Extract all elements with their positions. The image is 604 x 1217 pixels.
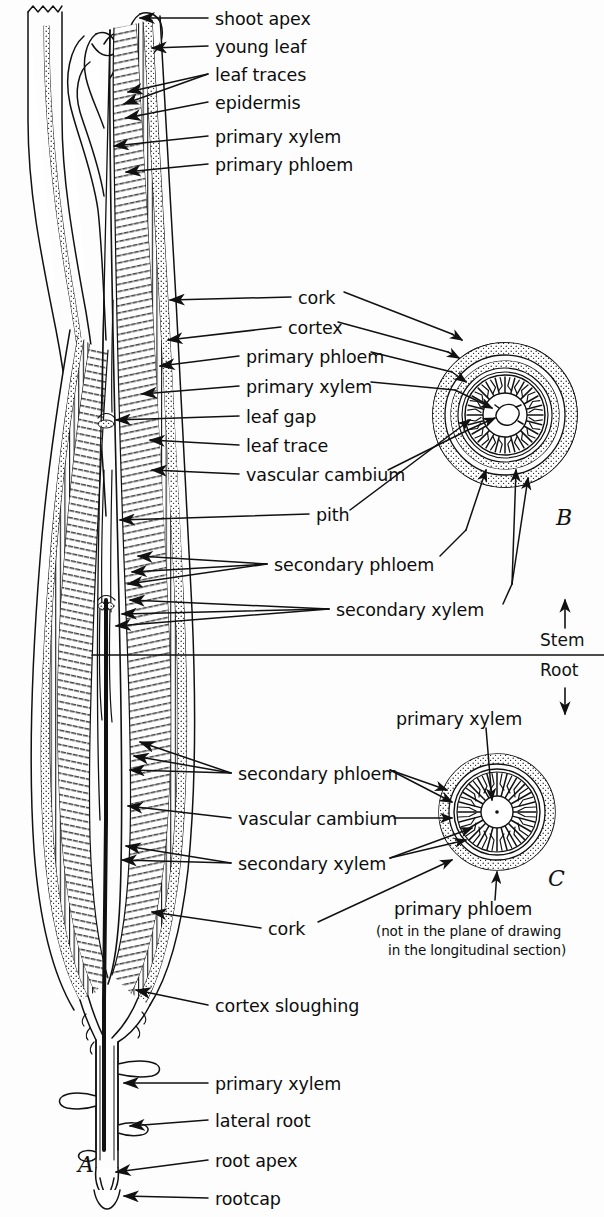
- root-divider-label: Root: [540, 660, 579, 680]
- label-cork-2: cork: [268, 920, 305, 938]
- label-cortex: cortex: [288, 319, 343, 337]
- label-leaf-trace: leaf trace: [246, 437, 328, 455]
- label-primary-phloem-1: primary phloem: [215, 156, 353, 174]
- label-secondary-xylem-1: secondary xylem: [336, 601, 484, 619]
- panel-c-caption-note-2: in the longitudinal section): [388, 943, 566, 957]
- label-rootcap: rootcap: [215, 1190, 281, 1208]
- label-primary-phloem-2: primary phloem: [246, 348, 384, 366]
- panel-c-caption-main: primary phloem: [394, 900, 532, 918]
- label-leaf-traces: leaf traces: [215, 66, 306, 84]
- label-secondary-xylem-2: secondary xylem: [238, 855, 386, 873]
- label-pith: pith: [316, 506, 350, 524]
- label-secondary-phloem-1: secondary phloem: [274, 556, 434, 574]
- label-root-apex: root apex: [215, 1152, 297, 1170]
- panel-c-caption-note-1: (not in the plane of drawing: [376, 924, 561, 938]
- label-primary-xylem-4: primary xylem: [215, 1075, 341, 1093]
- label-primary-xylem-2: primary xylem: [246, 378, 372, 396]
- label-shoot-apex: shoot apex: [215, 10, 311, 28]
- label-leaf-gap: leaf gap: [246, 408, 316, 426]
- label-young-leaf: young leaf: [215, 38, 306, 56]
- label-cortex-sloughing: cortex sloughing: [215, 997, 359, 1015]
- central-primary-xylem-core: [104, 600, 106, 1150]
- panel-label-C: C: [548, 866, 565, 891]
- label-primary-xylem-1: primary xylem: [215, 128, 341, 146]
- root-body: [96, 1040, 118, 1168]
- label-vascular-cambium-1: vascular cambium: [246, 466, 405, 484]
- plant-anatomy-figure: [0, 0, 604, 1217]
- stem-divider-label: Stem: [540, 630, 584, 650]
- panel-label-A: A: [78, 1152, 94, 1177]
- label-cork-1: cork: [298, 289, 335, 307]
- label-secondary-phloem-2: secondary phloem: [238, 765, 398, 783]
- label-lateral-root: lateral root: [215, 1112, 310, 1130]
- label-vascular-cambium-2: vascular cambium: [238, 810, 397, 828]
- panel-label-B: B: [556, 505, 572, 530]
- cross-section-C: [439, 754, 555, 870]
- label-epidermis: epidermis: [215, 94, 301, 112]
- cross-section-B: [433, 343, 577, 487]
- label-primary-xylem-3: primary xylem: [396, 710, 522, 728]
- rootcap: [94, 1168, 120, 1209]
- lateral-roots: [60, 1061, 160, 1161]
